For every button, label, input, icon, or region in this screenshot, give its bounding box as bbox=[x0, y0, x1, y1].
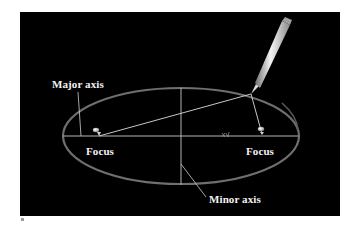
ellipse-diagram bbox=[0, 0, 354, 228]
focus-label-right: Focus bbox=[246, 145, 274, 157]
minor-axis-label: Minor axis bbox=[209, 193, 261, 205]
major-axis-leader bbox=[78, 92, 81, 136]
minor-axis-leader bbox=[181, 164, 206, 197]
focus-label-left: Focus bbox=[86, 145, 114, 157]
major-axis-label: Major axis bbox=[52, 78, 104, 90]
corner-mark bbox=[21, 218, 24, 221]
pin-icon-right bbox=[258, 127, 264, 135]
pencil-icon bbox=[251, 17, 292, 94]
string-left bbox=[99, 94, 251, 136]
pin-icon-left bbox=[93, 128, 101, 136]
